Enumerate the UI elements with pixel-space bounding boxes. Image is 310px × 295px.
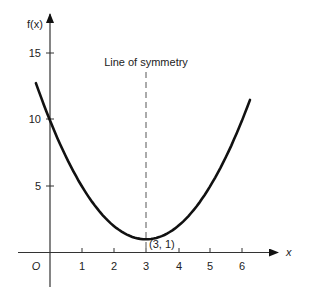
x-tick-label: 2 xyxy=(111,260,117,272)
x-axis-label: x xyxy=(285,246,292,258)
y-tick-label: 10 xyxy=(29,113,41,125)
x-tick-label: 6 xyxy=(239,260,245,272)
x-tick-label: 4 xyxy=(176,260,182,272)
y-tick-label: 15 xyxy=(29,47,41,59)
y-tick-label: 5 xyxy=(35,180,41,192)
y-axis-label: f(x) xyxy=(27,18,43,30)
x-tick-label: 5 xyxy=(207,260,213,272)
x-tick-label: 1 xyxy=(79,260,85,272)
x-tick-label: 3 xyxy=(143,260,149,272)
parabola-chart: 1 2 3 4 5 6 15 10 5 O x f(x) Line of sym… xyxy=(0,0,310,295)
parabola-curve xyxy=(36,83,250,239)
line-of-symmetry-label: Line of symmetry xyxy=(104,56,188,68)
origin-label: O xyxy=(32,260,41,272)
